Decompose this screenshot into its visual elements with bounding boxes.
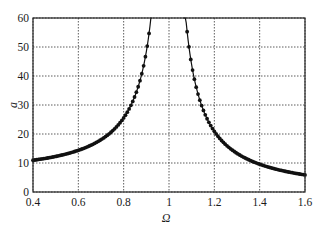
data-point	[198, 98, 202, 102]
data-point	[136, 85, 140, 89]
data-point	[142, 64, 146, 68]
y-tick-label: 40	[18, 70, 30, 82]
data-point	[192, 77, 196, 81]
x-tick-label: 1	[166, 196, 172, 208]
data-point	[145, 44, 149, 48]
data-point	[202, 109, 206, 113]
data-point	[129, 103, 133, 107]
y-tick-label: 50	[18, 41, 30, 53]
data-point	[205, 117, 209, 121]
x-tick-label: 1.6	[298, 196, 313, 208]
y-tick-label: 0	[23, 186, 29, 198]
data-point	[147, 32, 151, 36]
data-point	[144, 55, 148, 59]
data-point	[207, 120, 211, 124]
x-tick-labels: 0.40.60.811.21.41.6	[26, 196, 313, 208]
data-point	[189, 58, 193, 62]
y-axis-label: a	[6, 102, 20, 108]
data-point	[131, 99, 135, 103]
x-tick-label: 0.6	[71, 196, 86, 208]
y-tick-label: 20	[18, 128, 30, 140]
data-point	[140, 72, 144, 76]
data-point	[196, 92, 200, 96]
data-point	[187, 45, 191, 49]
x-tick-label: 1.2	[207, 196, 222, 208]
x-axis-label: Ω	[162, 211, 171, 225]
data-point	[134, 90, 138, 94]
curve-line	[184, 18, 305, 175]
data-point	[185, 30, 189, 34]
data-point	[125, 110, 129, 114]
x-tick-label: 1.4	[252, 196, 267, 208]
x-tick-label: 0.8	[116, 196, 131, 208]
data-point	[191, 68, 195, 72]
y-tick-label: 10	[18, 157, 30, 169]
data-point	[127, 107, 131, 111]
curve-line	[33, 18, 152, 160]
data-point	[133, 95, 137, 99]
resonance-chart: 0.40.60.811.21.41.6 0102030405060 Ω a	[0, 0, 321, 230]
data-point	[200, 104, 204, 108]
y-tick-label: 60	[18, 12, 30, 24]
data-point	[203, 113, 207, 117]
data-point	[194, 85, 198, 89]
data-point	[138, 79, 142, 83]
